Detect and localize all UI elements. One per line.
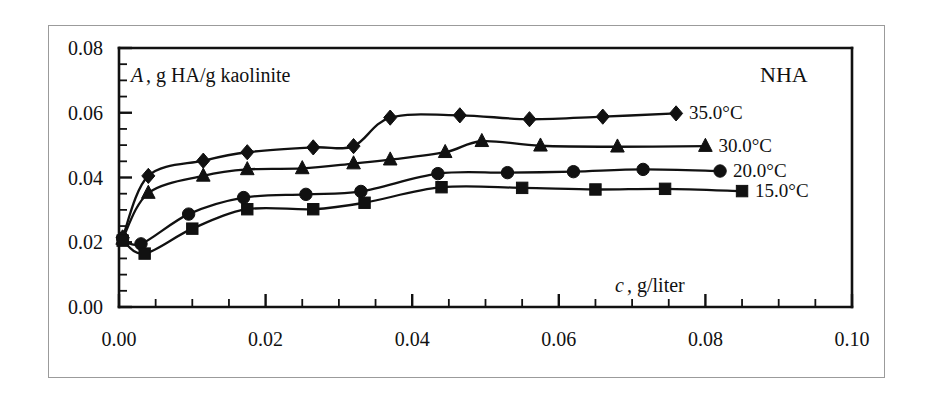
data-point-marker <box>359 197 370 208</box>
data-point-marker <box>699 138 713 151</box>
data-point-marker <box>241 145 254 160</box>
series-15-0-c <box>117 182 748 260</box>
data-point-marker <box>242 204 253 215</box>
data-point-marker <box>117 235 128 246</box>
data-point-marker <box>714 165 726 177</box>
series-label: 35.0°C <box>689 102 743 123</box>
data-point-marker <box>347 138 360 153</box>
data-point-marker <box>355 185 367 197</box>
series-label: 20.0°C <box>733 160 787 181</box>
data-point-marker <box>197 153 210 168</box>
x-tick-label: 0.10 <box>835 328 870 350</box>
chart-svg: 0.000.020.040.060.08 0.000.020.040.060.0… <box>0 0 930 407</box>
data-point-marker <box>432 167 444 179</box>
data-point-marker <box>308 204 319 215</box>
data-point-marker <box>590 184 601 195</box>
series-line <box>123 186 742 254</box>
series-label: 30.0°C <box>718 135 772 156</box>
series-label: 15.0°C <box>755 180 809 201</box>
x-tick-label: 0.02 <box>248 328 283 350</box>
data-point-marker <box>453 108 466 123</box>
data-point-marker <box>307 140 320 155</box>
data-point-marker <box>611 139 625 152</box>
data-point-marker <box>436 182 447 193</box>
x-tick-label: 0.04 <box>395 328 430 350</box>
data-point-marker <box>384 110 397 125</box>
data-point-marker <box>637 163 649 175</box>
series-layer <box>116 106 748 259</box>
data-point-marker <box>142 185 156 198</box>
series-line <box>123 169 720 245</box>
x-axis-title: c , g/liter <box>615 274 685 297</box>
x-axis-tick-labels: 0.000.020.040.060.080.10 <box>102 328 870 350</box>
x-axis-title-rest: , g/liter <box>627 274 685 297</box>
data-point-marker <box>567 165 579 177</box>
data-point-marker <box>516 182 527 193</box>
y-tick-label: 0.06 <box>68 102 103 124</box>
data-point-marker <box>523 112 536 127</box>
y-axis-title-rest: , g HA/g kaolinite <box>146 64 291 87</box>
x-tick-label: 0.06 <box>541 328 576 350</box>
data-point-marker <box>736 185 747 196</box>
data-point-marker <box>237 191 249 203</box>
y-tick-label: 0.02 <box>68 231 103 253</box>
data-point-marker <box>139 248 150 259</box>
data-point-marker <box>596 109 609 124</box>
x-axis-title-symbol: c <box>615 274 624 296</box>
y-axis-title: A , g HA/g kaolinite <box>129 64 291 87</box>
y-axis-title-symbol: A <box>129 64 144 86</box>
data-point-marker <box>182 208 194 220</box>
data-point-marker <box>187 223 198 234</box>
chart-figure: 0.000.020.040.060.08 0.000.020.040.060.0… <box>0 0 930 407</box>
data-point-marker <box>659 183 670 194</box>
data-point-marker <box>300 188 312 200</box>
y-tick-label: 0.00 <box>68 296 103 318</box>
x-axis-ticks <box>119 294 852 307</box>
x-tick-label: 0.08 <box>688 328 723 350</box>
x-tick-label: 0.00 <box>102 328 137 350</box>
y-axis-tick-labels: 0.000.020.040.060.08 <box>68 37 103 318</box>
y-axis-ticks <box>119 48 132 307</box>
figure-page: 0.000.020.040.060.08 0.000.020.040.060.0… <box>0 0 930 407</box>
data-point-marker <box>670 106 683 121</box>
y-tick-label: 0.04 <box>68 167 103 189</box>
y-tick-label: 0.08 <box>68 37 103 59</box>
corner-label-nha: NHA <box>760 62 808 87</box>
data-point-marker <box>501 166 513 178</box>
